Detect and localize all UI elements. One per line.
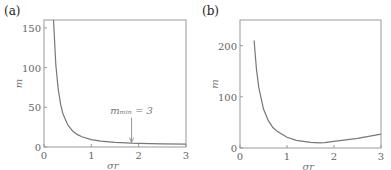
annotation-label: mₘᵢₙ = 3 <box>110 105 153 116</box>
y-tick-label: 100 <box>22 63 41 74</box>
x-tick-label: 0 <box>237 151 243 162</box>
chart-panel-b: 01230100200σrm <box>209 20 384 170</box>
y-axis-label: m <box>209 79 220 88</box>
y-tick-label: 100 <box>218 92 237 103</box>
x-tick-label: 0 <box>41 150 47 161</box>
x-axis-label: σr <box>303 161 316 170</box>
x-tick-label: 2 <box>331 151 337 162</box>
x-tick-label: 1 <box>88 150 94 161</box>
x-axis-label: σr <box>107 160 120 170</box>
data-curve <box>54 20 187 144</box>
y-tick-label: 0 <box>231 143 237 154</box>
x-tick-label: 3 <box>378 151 384 162</box>
chart-panel-a: 0123050100150σrmmₘᵢₙ = 3 <box>13 20 189 170</box>
plot-frame <box>240 20 381 148</box>
data-curve <box>254 41 381 143</box>
y-tick-label: 200 <box>218 41 237 52</box>
y-tick-label: 150 <box>22 23 41 34</box>
x-tick-label: 2 <box>135 150 141 161</box>
x-tick-label: 1 <box>284 151 290 162</box>
y-tick-label: 50 <box>28 102 41 113</box>
x-tick-label: 3 <box>183 150 189 161</box>
plot-frame <box>44 20 186 147</box>
charts-canvas: 0123050100150σrmmₘᵢₙ = 3 01230100200σrm <box>0 0 391 170</box>
y-tick-label: 0 <box>35 142 41 153</box>
y-axis-label: m <box>13 79 24 88</box>
